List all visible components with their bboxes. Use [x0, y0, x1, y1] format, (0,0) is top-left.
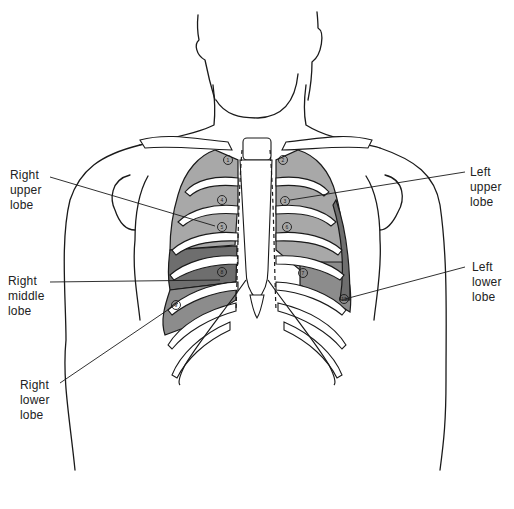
jaw	[216, 74, 298, 118]
marker-number: 7	[302, 270, 305, 276]
right-shoulder-outline	[380, 175, 402, 230]
sternum	[240, 160, 272, 300]
left-shoulder-outline	[112, 175, 135, 230]
head-outline-right	[308, 12, 322, 100]
marker-number: 4	[221, 197, 224, 203]
right-arm	[366, 176, 380, 320]
label-right-middle-lobe: Right middle lobe	[8, 274, 45, 319]
torso-left	[64, 145, 140, 470]
left-clavicle	[140, 137, 232, 150]
label-right-lower-lobe: Right lower lobe	[20, 378, 50, 423]
left-arm	[134, 176, 148, 320]
marker-number: 5	[221, 224, 224, 230]
neck-left	[140, 85, 215, 145]
head-outline-left	[196, 15, 215, 100]
marker-number: 3	[284, 198, 287, 204]
leader-right-lower	[60, 303, 178, 383]
marker-number: 6	[286, 224, 289, 230]
marker-number: 2	[282, 157, 285, 163]
label-left-upper-lobe: Left upper lobe	[470, 165, 502, 210]
label-left-lower-lobe: Left lower lobe	[472, 260, 502, 305]
marker-number: 9	[175, 302, 178, 308]
chest-lung-diagram: 12345678910	[0, 0, 514, 509]
xiphoid	[250, 295, 264, 318]
marker-number: 8	[221, 269, 224, 275]
marker-number: 1	[227, 157, 230, 163]
torso-right	[380, 148, 446, 470]
leader-left-lower	[345, 267, 465, 299]
right-clavicle	[282, 137, 372, 150]
label-right-upper-lobe: Right upper lobe	[10, 168, 42, 213]
marker-number: 10	[341, 296, 347, 302]
manubrium	[243, 138, 271, 160]
